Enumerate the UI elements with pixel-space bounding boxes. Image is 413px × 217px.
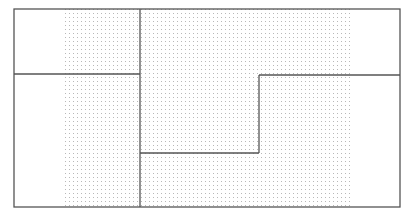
- diagram-canvas: [0, 0, 413, 217]
- dot-grid-region: [62, 9, 350, 207]
